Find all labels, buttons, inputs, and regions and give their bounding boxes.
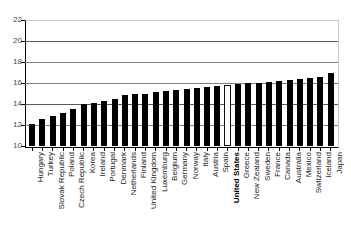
x-tick-slot	[305, 147, 315, 151]
x-tick-mark	[217, 147, 218, 151]
x-label-slot: Turkey	[37, 152, 47, 232]
x-tick-slot	[171, 147, 181, 151]
bar	[132, 94, 138, 147]
x-tick-mark	[42, 147, 43, 151]
x-tick-slot	[243, 147, 253, 151]
bar-slot	[192, 21, 202, 146]
x-tick-mark	[93, 147, 94, 151]
x-tick-slot	[78, 147, 88, 151]
x-tick-slot	[254, 147, 264, 151]
bar-slot	[27, 21, 37, 146]
x-label-slot: Denmark	[109, 152, 119, 232]
y-tick-label: 22	[4, 16, 22, 24]
x-label-slot: Italy	[192, 152, 202, 232]
x-tick-mark	[268, 147, 269, 151]
bar	[266, 82, 272, 146]
bar	[163, 91, 169, 146]
bar-slot	[295, 21, 305, 146]
bar	[142, 94, 148, 147]
x-tick-mark	[166, 147, 167, 151]
x-tick-slot	[27, 147, 37, 151]
bar-slot	[58, 21, 68, 146]
x-tick-mark	[114, 147, 115, 151]
x-tick-mark	[248, 147, 249, 151]
bar	[256, 83, 262, 146]
x-label-slot: Greece	[233, 152, 243, 232]
x-tick-slot	[58, 147, 68, 151]
bar	[224, 85, 231, 146]
x-tick-slot	[264, 147, 274, 151]
bar-slot	[181, 21, 191, 146]
x-tick-mark	[196, 147, 197, 151]
bar-slot	[68, 21, 78, 146]
bar	[122, 95, 128, 146]
bar-slot	[109, 21, 119, 146]
x-tick-mark	[227, 147, 228, 151]
y-tick-label: 16	[4, 79, 22, 87]
x-tick-slot	[233, 147, 243, 151]
x-label-slot: Mexico	[295, 152, 305, 232]
bar-slot	[212, 21, 222, 146]
bar-series	[26, 21, 337, 146]
bar-slot	[37, 21, 47, 146]
x-label-slot: Portugal	[99, 152, 109, 232]
x-label-slot: United Kingdom	[140, 152, 150, 232]
bar-slot	[305, 21, 315, 146]
x-tick-slot	[161, 147, 171, 151]
bar-slot	[171, 21, 181, 146]
x-tick-mark	[83, 147, 84, 151]
x-tick-mark	[32, 147, 33, 151]
x-tick-mark	[124, 147, 125, 151]
x-label-slot: Sweden	[254, 152, 264, 232]
x-tick-slot	[212, 147, 222, 151]
bar	[194, 88, 200, 146]
bar	[153, 92, 159, 146]
x-label-slot: Switzerland	[305, 152, 315, 232]
bar	[60, 113, 66, 146]
bar-chart: 22201816141210 HungaryTurkeySlovak Repub…	[0, 0, 351, 235]
x-label-slot: Netherlands	[120, 152, 130, 232]
x-axis-ticks	[26, 147, 337, 151]
x-label-slot: Norway	[181, 152, 191, 232]
x-tick-slot	[326, 147, 336, 151]
x-tick-mark	[330, 147, 331, 151]
x-label-slot: Poland	[58, 152, 68, 232]
bar	[287, 80, 293, 146]
x-tick-mark	[299, 147, 300, 151]
x-label-slot: Luxemburg	[151, 152, 161, 232]
bar-slot	[315, 21, 325, 146]
x-tick-mark	[238, 147, 239, 151]
bar	[307, 78, 313, 146]
x-label-slot: Australia	[284, 152, 294, 232]
x-label-slot: Slovak Republic	[48, 152, 58, 232]
x-tick-slot	[274, 147, 284, 151]
bar-slot	[274, 21, 284, 146]
x-label-slot: France	[264, 152, 274, 232]
x-tick-slot	[151, 147, 161, 151]
bar	[29, 124, 35, 146]
bar	[81, 104, 87, 146]
bar-slot	[89, 21, 99, 146]
x-label-slot: Finland	[130, 152, 140, 232]
x-label-slot: Canada	[274, 152, 284, 232]
bar-slot	[202, 21, 212, 146]
bar	[101, 101, 107, 146]
x-label-slot: Spain	[212, 152, 222, 232]
bar	[245, 83, 251, 146]
x-tick-mark	[258, 147, 259, 151]
x-tick-slot	[295, 147, 305, 151]
bar-slot	[140, 21, 150, 146]
x-label-slot: Czech Republic	[68, 152, 78, 232]
x-tick-slot	[89, 147, 99, 151]
bar	[112, 99, 118, 146]
x-label-slot: Korea	[78, 152, 88, 232]
x-tick-slot	[48, 147, 58, 151]
bar	[184, 89, 190, 146]
x-tick-mark	[104, 147, 105, 151]
y-tick-label: 14	[4, 100, 22, 108]
x-label-slot: New Zealand	[243, 152, 253, 232]
x-tick-slot	[284, 147, 294, 151]
bar-slot	[120, 21, 130, 146]
x-label-slot: United States	[223, 152, 233, 232]
x-tick-mark	[52, 147, 53, 151]
